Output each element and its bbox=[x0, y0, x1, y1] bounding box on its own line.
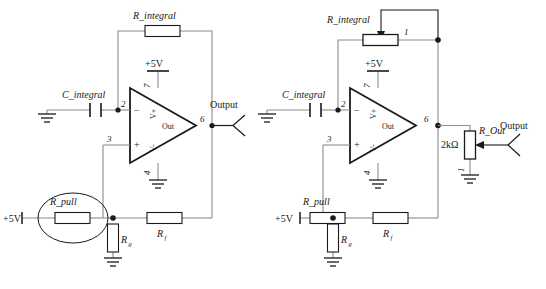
right-opamp-noninverting-sign: + bbox=[354, 139, 360, 150]
left-r-f-subscript: f bbox=[165, 234, 168, 241]
left-pin-3-label: 3 bbox=[106, 134, 112, 144]
left-r-g-body bbox=[108, 224, 119, 252]
right-opamp-vplus-label: V+ bbox=[369, 108, 378, 119]
right-bias-node-dot bbox=[330, 215, 336, 221]
left-opamp-vplus-label: V+ bbox=[149, 108, 158, 119]
right-r-f-label: R bbox=[382, 228, 389, 239]
right-opamp-ground-symbol bbox=[369, 180, 387, 188]
right-opamp-vminus-label: V- bbox=[369, 144, 378, 152]
right-output-terminal-icon bbox=[508, 134, 520, 156]
right-pin-6-label: 6 bbox=[424, 114, 429, 124]
right-r-integral-body bbox=[363, 35, 398, 46]
right-c-integral-label: C_integral bbox=[282, 89, 326, 100]
left-opamp-inverting-sign: − bbox=[134, 105, 140, 116]
right-output-label: Output bbox=[500, 120, 528, 131]
left-c-integral-body bbox=[90, 103, 101, 117]
right-pin-3-label: 3 bbox=[326, 134, 332, 144]
right-r-f-body bbox=[373, 213, 408, 224]
left-r-integral-label: R_integral bbox=[132, 10, 176, 21]
left-node-2-dot bbox=[115, 107, 120, 112]
right-pull-supply-label: +5V bbox=[275, 213, 294, 224]
left-cap-ground-symbol bbox=[38, 114, 56, 122]
left-opamp-ground-symbol bbox=[149, 180, 167, 188]
right-r-out-pin-label: 1 bbox=[456, 168, 466, 173]
left-opamp-vminus-label: V- bbox=[149, 144, 158, 152]
left-r-f-body bbox=[147, 213, 182, 224]
left-pin-6-label: 6 bbox=[200, 114, 205, 124]
right-r-g-label: R bbox=[340, 234, 347, 245]
right-r-integral-pin-label: 1 bbox=[404, 27, 409, 37]
left-pin-2-label: 2 bbox=[121, 99, 126, 109]
left-opamp-noninverting-sign: + bbox=[134, 139, 140, 150]
right-pin-4-label: 4 bbox=[362, 170, 372, 175]
left-r-g-subscript: g bbox=[129, 240, 133, 247]
circuit-diagram-canvas: R_integral +5V 7 V+ V- Out − + 4 bbox=[0, 0, 546, 289]
right-r-out-wiper-arrow bbox=[475, 141, 484, 149]
right-r-out-ground-symbol bbox=[461, 175, 479, 183]
left-r-pull-label: R_pull bbox=[49, 196, 77, 207]
right-pin-7-label: 7 bbox=[362, 83, 372, 88]
left-r-f-label: R bbox=[156, 228, 163, 239]
right-r-f-subscript: f bbox=[391, 234, 394, 241]
left-pull-supply-label: +5V bbox=[3, 213, 22, 224]
schematic-svg: R_integral +5V 7 V+ V- Out − + 4 bbox=[0, 0, 546, 289]
left-pin-7-label: 7 bbox=[142, 83, 152, 88]
right-r-integral-node-dot bbox=[435, 37, 441, 43]
right-opamp-supply-label: +5V bbox=[365, 58, 384, 69]
right-r-pull-label: R_pull bbox=[302, 196, 330, 207]
right-opamp-out-label: Out bbox=[382, 122, 395, 131]
left-c-integral-label: C_integral bbox=[62, 89, 106, 100]
right-pin-2-label: 2 bbox=[341, 99, 346, 109]
left-r-pull-body bbox=[55, 213, 90, 224]
left-output-label: Output bbox=[210, 99, 238, 110]
right-r-integral-label: R_integral bbox=[326, 14, 370, 25]
left-circuit: R_integral +5V 7 V+ V- Out − + 4 bbox=[3, 10, 245, 266]
right-rg-ground-symbol bbox=[324, 258, 342, 266]
right-node-2-dot bbox=[335, 107, 340, 112]
right-cap-ground-symbol bbox=[258, 114, 276, 122]
right-r-g-subscript: g bbox=[349, 240, 353, 247]
right-r-pull-body bbox=[310, 213, 345, 224]
right-opamp-inverting-sign: − bbox=[354, 105, 360, 116]
left-rg-ground-symbol bbox=[104, 258, 122, 266]
left-opamp-supply-label: +5V bbox=[145, 58, 164, 69]
left-bias-node-dot bbox=[110, 215, 116, 221]
left-output-terminal-icon bbox=[212, 115, 245, 136]
left-pin-4-label: 4 bbox=[142, 170, 152, 175]
left-opamp-out-label: Out bbox=[162, 122, 175, 131]
right-circuit: R_integral 1 +5V 7 V+ V- Out − + 4 bbox=[258, 10, 528, 266]
left-r-g-label: R bbox=[120, 234, 127, 245]
right-c-integral-body bbox=[310, 103, 321, 117]
left-r-integral-body bbox=[145, 26, 180, 37]
right-r-g-body bbox=[328, 224, 339, 252]
right-r-out-body bbox=[465, 131, 476, 159]
right-r-out-value-label: 2kΩ bbox=[441, 139, 458, 150]
